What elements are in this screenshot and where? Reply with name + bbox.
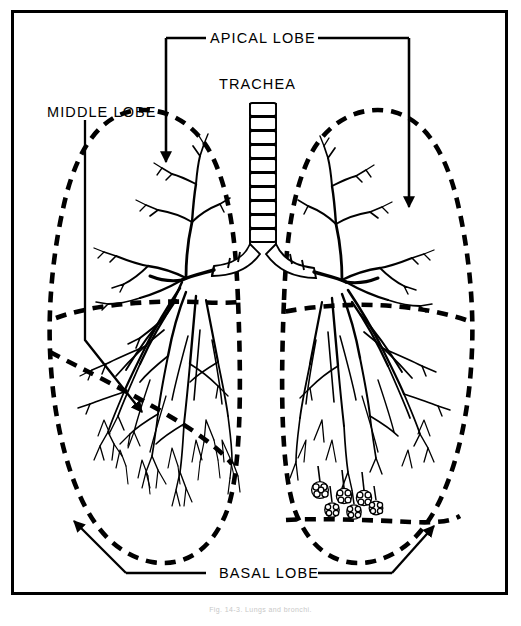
arrow-basal-right	[392, 526, 434, 573]
label-basal-lobe: BASAL LOBE	[219, 565, 319, 581]
dashed-fissure-right	[284, 305, 466, 320]
bronchial-tree-left	[78, 134, 240, 506]
label-apical-lobe: APICAL LOBE	[210, 30, 316, 46]
leader-middle-lobe	[85, 120, 142, 412]
dashed-outline-left-lung	[50, 110, 240, 563]
bronchial-tree-right	[290, 136, 450, 490]
dashed-fissure-left-upper	[56, 302, 238, 318]
figure-caption: Fig. 14-3. Lungs and bronchi.	[0, 606, 521, 613]
dashed-fissure-right-lower	[286, 516, 460, 522]
leader-apical-lobe-bracket	[166, 38, 409, 200]
trachea	[250, 103, 276, 250]
figure-page: APICAL LOBE TRACHEA MIDDLE LOBE BASAL LO…	[0, 0, 521, 626]
label-middle-lobe: MIDDLE LOBE	[47, 104, 157, 120]
main-bronchi	[212, 244, 316, 278]
lung-anatomy-diagram	[0, 0, 521, 626]
label-trachea: TRACHEA	[219, 76, 296, 92]
